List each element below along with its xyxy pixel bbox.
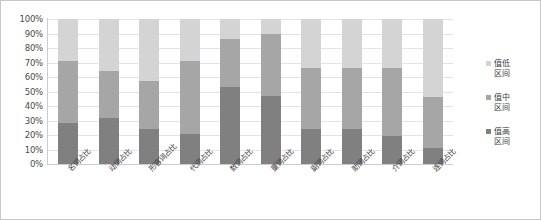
bar-10[interactable] bbox=[423, 19, 443, 164]
bar-segment[interactable] bbox=[139, 81, 159, 129]
legend-swatch-icon bbox=[486, 129, 491, 134]
bar-segment[interactable] bbox=[180, 19, 200, 61]
bar-segment[interactable] bbox=[301, 19, 321, 68]
x-axis-label-slot: 量词占比 bbox=[261, 165, 281, 220]
x-axis-label-slot: 助词占比 bbox=[342, 165, 362, 220]
bar-segment[interactable] bbox=[220, 39, 240, 87]
bar-segment[interactable] bbox=[261, 96, 281, 164]
chart-legend: 值低区间值中区间值高区间 bbox=[486, 59, 536, 147]
bar-1[interactable] bbox=[58, 19, 78, 164]
bar-9[interactable] bbox=[382, 19, 402, 164]
y-axis-tick-label: 20% bbox=[25, 131, 43, 139]
bar-6[interactable] bbox=[261, 19, 281, 164]
y-axis-tick-label: 40% bbox=[25, 102, 43, 110]
x-axis-label-slot: 名词占比 bbox=[58, 165, 78, 220]
x-axis-label-slot: 形容词占比 bbox=[139, 165, 159, 220]
legend-swatch-icon bbox=[486, 61, 491, 66]
x-axis-label-slot: 动词占比 bbox=[99, 165, 119, 220]
legend-swatch-icon bbox=[486, 95, 491, 100]
legend-item[interactable]: 值低区间 bbox=[486, 59, 536, 79]
x-axis-label-slot: 介词占比 bbox=[382, 165, 402, 220]
x-axis-label-slot: 连词占比 bbox=[423, 165, 443, 220]
bar-segment[interactable] bbox=[423, 19, 443, 97]
y-axis-tick-label: 0% bbox=[30, 160, 43, 168]
legend-label: 值中区间 bbox=[494, 93, 514, 113]
bar-segment[interactable] bbox=[301, 68, 321, 129]
x-axis-label-slot: 代词占比 bbox=[180, 165, 200, 220]
legend-label: 值低区间 bbox=[494, 59, 514, 79]
bar-segment[interactable] bbox=[382, 68, 402, 136]
bar-segment[interactable] bbox=[220, 87, 240, 164]
bar-segment[interactable] bbox=[342, 19, 362, 68]
bar-segment[interactable] bbox=[58, 61, 78, 123]
bar-8[interactable] bbox=[342, 19, 362, 164]
x-axis-label-slot: 数词占比 bbox=[220, 165, 240, 220]
bar-segment[interactable] bbox=[99, 71, 119, 117]
legend-item[interactable]: 值中区间 bbox=[486, 93, 536, 113]
bar-segment[interactable] bbox=[99, 19, 119, 71]
bar-group bbox=[48, 19, 453, 164]
bar-segment[interactable] bbox=[261, 34, 281, 96]
y-axis-tick-label: 60% bbox=[25, 73, 43, 81]
bar-segment[interactable] bbox=[382, 19, 402, 68]
legend-label: 值高区间 bbox=[494, 127, 514, 147]
y-axis-tick-label: 30% bbox=[25, 117, 43, 125]
y-axis: 100%90%80%70%60%50%40%30%20%10%0% bbox=[1, 11, 46, 172]
y-axis-tick-label: 70% bbox=[25, 59, 43, 67]
y-axis-tick-label: 80% bbox=[25, 44, 43, 52]
legend-item[interactable]: 值高区间 bbox=[486, 127, 536, 147]
bar-segment[interactable] bbox=[139, 19, 159, 81]
bar-3[interactable] bbox=[139, 19, 159, 164]
bar-segment[interactable] bbox=[342, 68, 362, 129]
bar-5[interactable] bbox=[220, 19, 240, 164]
bar-segment[interactable] bbox=[261, 19, 281, 34]
y-axis-tick-label: 10% bbox=[25, 146, 43, 154]
y-axis-tick-label: 90% bbox=[25, 30, 43, 38]
x-axis-labels: 名词占比动词占比形容词占比代词占比数词占比量词占比副词占比助词占比介词占比连词占… bbox=[48, 165, 453, 220]
y-axis-tick-label: 100% bbox=[19, 15, 43, 23]
bar-7[interactable] bbox=[301, 19, 321, 164]
bar-segment[interactable] bbox=[180, 61, 200, 134]
bar-segment[interactable] bbox=[220, 19, 240, 39]
bar-segment[interactable] bbox=[423, 97, 443, 148]
bar-2[interactable] bbox=[99, 19, 119, 164]
x-axis-label-slot: 副词占比 bbox=[301, 165, 321, 220]
stacked-bar-chart: 100%90%80%70%60%50%40%30%20%10%0% 名词占比动词… bbox=[0, 0, 541, 220]
plot-area bbox=[48, 19, 453, 164]
y-axis-tick-label: 50% bbox=[25, 88, 43, 96]
bar-4[interactable] bbox=[180, 19, 200, 164]
bar-segment[interactable] bbox=[58, 19, 78, 61]
